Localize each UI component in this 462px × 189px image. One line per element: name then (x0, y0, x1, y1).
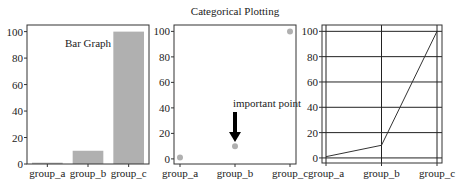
scatter-chart-axes: important point020406080100group_agroup_… (154, 25, 309, 179)
figure: Categorical Plotting Bar Graph0204060801… (0, 0, 462, 189)
y-tick-label: 100 (7, 26, 24, 38)
y-tick-label: 80 (159, 51, 171, 63)
scatter-point-group_b (232, 143, 238, 149)
y-tick-label: 40 (12, 105, 24, 117)
y-tick-label: 0 (165, 153, 171, 165)
x-tick-label-group_b: group_b (217, 167, 254, 179)
x-tick-label-group_b: group_b (363, 167, 400, 179)
y-tick-label: 80 (307, 51, 319, 63)
bar-group_c (113, 32, 144, 164)
y-tick-label: 80 (12, 52, 24, 64)
figure-title: Categorical Plotting (191, 5, 280, 17)
important-point-label: important point (233, 97, 301, 109)
bar-group_b (73, 151, 104, 164)
y-tick-label: 20 (12, 132, 24, 144)
scatter-point-group_c (287, 28, 293, 34)
bar-graph-label: Bar Graph (65, 37, 112, 49)
scatter-point-group_a (177, 155, 183, 161)
y-tick-label: 60 (307, 76, 319, 88)
x-tick-label-group_b: group_b (70, 167, 107, 179)
bar-chart-axes: Bar Graph020406080100group_agroup_bgroup… (7, 25, 150, 179)
y-tick-label: 20 (307, 127, 319, 139)
y-tick-label: 40 (307, 101, 319, 113)
y-tick-label: 100 (154, 25, 171, 37)
arrow-down-icon (229, 132, 241, 142)
y-tick-label: 60 (12, 79, 24, 91)
y-tick-label: 0 (313, 152, 319, 164)
y-tick-label: 0 (18, 158, 24, 170)
y-tick-label: 100 (302, 25, 319, 37)
x-tick-label-group_c: group_c (419, 167, 455, 179)
line-chart-axes: 020406080100group_agroup_bgroup_c (302, 25, 456, 179)
x-tick-label-group_c: group_c (272, 167, 308, 179)
x-tick-label-group_a: group_a (308, 167, 344, 179)
x-tick-label-group_c: group_c (111, 167, 147, 179)
y-tick-label: 60 (159, 76, 171, 88)
x-tick-label-group_a: group_a (162, 167, 198, 179)
x-tick-label-group_a: group_a (29, 167, 65, 179)
y-tick-label: 20 (159, 127, 171, 139)
y-tick-label: 40 (159, 102, 171, 114)
